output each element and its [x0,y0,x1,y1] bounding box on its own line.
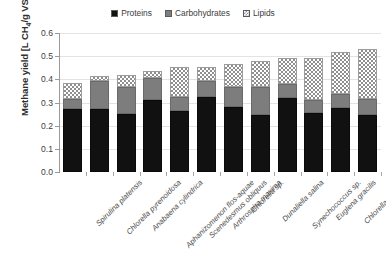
bar-segment-carbohydrates [251,87,270,115]
bar-segment-carbohydrates [224,87,243,107]
chart-legend: Proteins Carbohydrates Lipids [0,9,386,17]
bar-stack [304,58,323,172]
legend-label-carbohydrates: Carbohydrates [175,9,230,17]
legend-swatch-lipids [243,10,250,17]
bar-segment-lipids [251,61,270,88]
bar-segment-lipids [170,67,189,98]
bar-segment-carbohydrates [358,99,377,116]
bar-segment-proteins [90,109,109,172]
y-axis-tick-label: 0.6 [27,28,53,38]
bar-stack [143,71,162,172]
bar-segment-proteins [278,98,297,172]
bar-segment-lipids [358,49,377,98]
bar-stack [278,58,297,172]
legend-swatch-proteins [111,10,118,17]
bar-stack [251,61,270,172]
bar-segment-lipids [63,83,82,99]
bar-stack [331,52,350,172]
bar-segment-proteins [224,107,243,172]
legend-swatch-carbohydrates [165,10,172,17]
chart-figure: Proteins Carbohydrates Lipids Methane yi… [0,0,386,267]
bar-stack [197,67,216,172]
y-axis-tick-label: 0.3 [27,98,53,108]
bar-segment-proteins [170,111,189,172]
bar-segment-proteins [197,97,216,172]
bar-stack [170,67,189,172]
x-axis-labels: Spirulina platensisChlorella pyrenoidosa… [0,176,386,267]
bar-segment-lipids [117,75,136,87]
bar-segment-proteins [63,109,82,172]
bar-stack [90,76,109,172]
legend-entry-lipids: Lipids [243,9,275,17]
y-axis-title-post: /g VS] [19,0,30,23]
y-axis-title: Methane yield [L CH4/g VS] [18,0,32,131]
legend-label-proteins: Proteins [121,9,152,17]
bar-segment-lipids [304,58,323,100]
y-axis-tick-label: 0.5 [27,51,53,61]
y-axis-tick-label: 0.4 [27,74,53,84]
bar-segment-carbohydrates [63,99,82,109]
bar-segment-proteins [331,108,350,172]
bar-segment-proteins [304,113,323,172]
bar-segment-carbohydrates [331,94,350,107]
legend-entry-proteins: Proteins [111,9,152,17]
bar-segment-carbohydrates [278,84,297,98]
legend-label-lipids: Lipids [253,9,275,17]
bar-segment-lipids [224,64,243,87]
y-axis-title-sub: 4 [25,23,32,27]
bar-segment-carbohydrates [143,78,162,100]
legend-entry-carbohydrates: Carbohydrates [165,9,230,17]
plot-area [59,33,381,172]
bar-segment-proteins [358,115,377,172]
bar-stack [63,83,82,172]
bar-segment-carbohydrates [304,100,323,113]
bar-segment-carbohydrates [197,81,216,97]
bar-stack [117,75,136,172]
bar-segment-lipids [278,58,297,84]
bar-segment-carbohydrates [170,97,189,110]
bar-segment-proteins [117,114,136,172]
bar-segment-carbohydrates [90,81,109,110]
bar-segment-proteins [143,100,162,172]
bar-segment-carbohydrates [117,87,136,114]
y-axis-tick-label: 0.1 [27,144,53,154]
bar-segment-lipids [197,67,216,81]
bar-stack [358,49,377,172]
bar-segment-proteins [251,115,270,172]
y-axis-tick-label: 0.2 [27,121,53,131]
bar-segment-lipids [331,52,350,95]
bar-stack [224,64,243,172]
bar-segment-lipids [143,71,162,78]
